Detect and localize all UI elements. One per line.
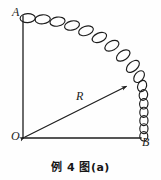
bead [77,24,94,37]
point-label-a: A [12,6,19,18]
axes-group [23,16,141,138]
bead [103,38,121,53]
bead [35,14,51,24]
bead [91,30,109,44]
radius-label: R [76,90,83,102]
bead [20,13,36,23]
point-label-o: O [11,130,20,142]
bead-chain-arc [20,13,149,141]
bead [114,47,132,63]
bead [64,19,81,31]
figure-container: A O B R 例 4 图(a) [0,0,161,180]
figure-caption: 例 4 图(a) [0,158,161,174]
point-label-b: B [142,136,149,148]
bead [124,58,141,75]
bead [49,16,65,27]
